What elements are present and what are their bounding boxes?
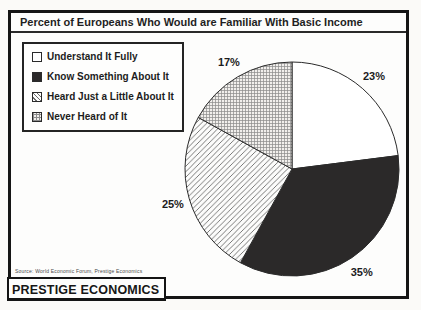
legend-swatch-diagonal-hatch-icon	[32, 92, 42, 102]
prestige-economics-logo: PRESTIGE ECONOMICS	[7, 277, 166, 301]
chart-title-bar: Percent of Europeans Who Would are Famil…	[11, 13, 406, 33]
legend-item-know-something: Know Something About It	[32, 71, 176, 82]
logo-text: PRESTIGE ECONOMICS	[12, 283, 159, 297]
page: { "title": "Percent of Europeans Who Wou…	[0, 0, 421, 310]
legend-label: Know Something About It	[47, 71, 169, 82]
pie-slice-value-label: 35%	[351, 266, 373, 278]
legend-swatch-black-icon	[32, 72, 42, 82]
chart-frame: Percent of Europeans Who Would are Famil…	[8, 10, 409, 299]
pie-slice-value-label: 17%	[218, 56, 240, 68]
chart-title: Percent of Europeans Who Would are Famil…	[20, 16, 363, 28]
legend-item-understand-fully: Understand It Fully	[32, 51, 176, 62]
legend-swatch-white-icon	[32, 52, 42, 62]
legend-label: Understand It Fully	[47, 51, 138, 62]
pie-slice-value-label: 25%	[162, 198, 184, 210]
legend-label: Never Heard of It	[47, 111, 127, 122]
pie-slices-group: 23%35%25%17%	[162, 56, 399, 277]
legend-label: Heard Just a Little About It	[47, 91, 174, 102]
legend: Understand It Fully Know Something About…	[22, 42, 184, 132]
legend-swatch-grid-icon	[32, 112, 42, 122]
legend-item-never-heard: Never Heard of It	[32, 111, 176, 122]
source-note: Source: World Economic Forum, Prestige E…	[15, 268, 142, 274]
pie-slice-value-label: 23%	[363, 70, 385, 82]
legend-item-heard-a-little: Heard Just a Little About It	[32, 91, 176, 102]
